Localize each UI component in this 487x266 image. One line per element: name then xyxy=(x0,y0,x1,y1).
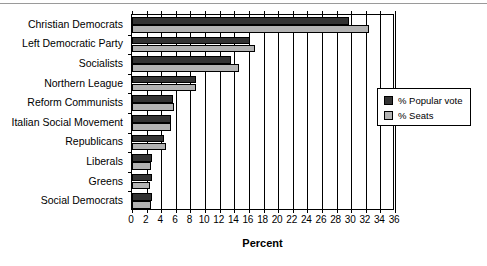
x-axis-title: Percent xyxy=(131,237,394,249)
bar-seats xyxy=(132,25,369,33)
category-label: Liberals xyxy=(86,155,123,167)
category-axis-tick xyxy=(128,74,132,75)
legend-label-seats: % Seats xyxy=(398,110,433,121)
x-axis-tick-label: 22 xyxy=(286,214,297,225)
x-axis-tick-label: 2 xyxy=(143,214,148,225)
bar-popular-vote xyxy=(132,37,250,45)
x-axis-tick-top xyxy=(293,11,294,15)
x-axis-tick xyxy=(147,209,148,213)
x-axis-tick xyxy=(366,209,367,213)
x-axis-tick-label: 12 xyxy=(213,214,224,225)
legend-swatch-seats xyxy=(384,111,393,120)
category-axis-tick xyxy=(128,93,132,94)
top-divider-rule xyxy=(0,3,487,4)
gridline xyxy=(322,15,323,209)
x-axis-tick-label: 0 xyxy=(128,214,133,225)
bar-popular-vote xyxy=(132,76,196,84)
x-axis-tick-top xyxy=(147,11,148,15)
bar-popular-vote xyxy=(132,17,349,25)
x-axis-tick-label: 16 xyxy=(243,214,254,225)
category-axis-tick xyxy=(128,172,132,173)
category-axis-tick xyxy=(128,152,132,153)
x-axis-tick xyxy=(234,209,235,213)
x-axis-tick-top xyxy=(307,11,308,15)
category-label: Italian Social Movement xyxy=(12,116,123,128)
x-axis-tick-label: 18 xyxy=(257,214,268,225)
gridline xyxy=(307,15,308,209)
x-axis-tick xyxy=(249,209,250,213)
gridline xyxy=(351,15,352,209)
gridline xyxy=(366,15,367,209)
legend-label-popular-vote: % Popular vote xyxy=(398,95,462,106)
category-axis-tick xyxy=(128,191,132,192)
bar-seats xyxy=(132,84,196,92)
category-label: Northern League xyxy=(44,77,123,89)
x-axis-tick-top xyxy=(132,11,133,15)
bar-seats xyxy=(132,103,174,111)
x-axis-tick-label: 26 xyxy=(316,214,327,225)
legend-swatch-popular-vote xyxy=(384,96,393,105)
category-axis-tick xyxy=(128,133,132,134)
gridline xyxy=(337,15,338,209)
x-axis-tick xyxy=(176,209,177,213)
category-label: Republicans xyxy=(65,135,123,147)
x-axis-tick-top xyxy=(351,11,352,15)
gridline xyxy=(278,15,279,209)
x-axis-tick-label: 28 xyxy=(330,214,341,225)
x-axis-tick xyxy=(395,209,396,213)
x-axis-tick-top xyxy=(380,11,381,15)
gridline xyxy=(293,15,294,209)
chart-figure: Christian DemocratsLeft Democratic Party… xyxy=(0,0,487,266)
x-axis-tick xyxy=(190,209,191,213)
category-axis-tick xyxy=(128,35,132,36)
x-axis-tick-label: 14 xyxy=(228,214,239,225)
x-axis-tick-top xyxy=(234,11,235,15)
x-axis-tick xyxy=(278,209,279,213)
x-axis-tick-label: 24 xyxy=(301,214,312,225)
bar-popular-vote xyxy=(132,174,152,182)
x-axis-tick xyxy=(380,209,381,213)
x-axis-tick-top xyxy=(176,11,177,15)
x-axis-tick-top xyxy=(205,11,206,15)
bar-seats xyxy=(132,182,150,190)
x-axis-tick-label: 34 xyxy=(374,214,385,225)
category-label: Christian Democrats xyxy=(28,18,123,30)
bar-popular-vote xyxy=(132,56,231,64)
x-axis-tick-top xyxy=(337,11,338,15)
x-axis-tick xyxy=(307,209,308,213)
x-axis-tick-top xyxy=(190,11,191,15)
category-axis-tick xyxy=(128,113,132,114)
bar-popular-vote xyxy=(132,135,164,143)
x-axis-tick-top xyxy=(322,11,323,15)
x-axis-tick-label: 36 xyxy=(389,214,400,225)
bar-seats xyxy=(132,123,171,131)
x-axis-tick xyxy=(205,209,206,213)
x-axis-tick xyxy=(351,209,352,213)
bar-popular-vote xyxy=(132,154,152,162)
bar-seats xyxy=(132,162,151,170)
x-axis-tick-label: 32 xyxy=(359,214,370,225)
legend-item-seats: % Seats xyxy=(384,109,464,122)
category-axis-labels: Christian DemocratsLeft Democratic Party… xyxy=(0,14,127,210)
x-axis-tick-top xyxy=(278,11,279,15)
category-label: Left Democratic Party xyxy=(22,37,123,49)
x-axis-tick xyxy=(132,209,133,213)
bar-popular-vote xyxy=(132,193,152,201)
x-axis-tick-top xyxy=(220,11,221,15)
bar-seats xyxy=(132,143,166,151)
x-axis-tick-label: 4 xyxy=(158,214,163,225)
x-axis-tick xyxy=(322,209,323,213)
x-axis-tick xyxy=(220,209,221,213)
x-axis-tick-top xyxy=(249,11,250,15)
x-axis-tick-top xyxy=(264,11,265,15)
legend-item-popular-vote: % Popular vote xyxy=(384,94,464,107)
bar-seats xyxy=(132,201,151,209)
x-axis-tick-label: 8 xyxy=(187,214,192,225)
x-axis-tick-label: 10 xyxy=(199,214,210,225)
x-axis-tick-top xyxy=(161,11,162,15)
bar-popular-vote xyxy=(132,115,171,123)
x-axis-tick-label: 20 xyxy=(272,214,283,225)
x-axis-tick-top xyxy=(366,11,367,15)
x-axis-tick xyxy=(293,209,294,213)
chart-legend: % Popular vote % Seats xyxy=(377,88,471,126)
